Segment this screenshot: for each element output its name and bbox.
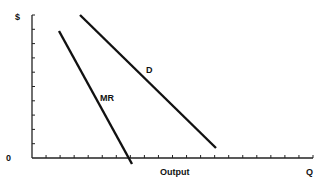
demand-curve-label: D <box>146 65 153 75</box>
chart-canvas: $ 0 Output Q D MR <box>0 0 328 184</box>
demand-curve <box>80 15 216 148</box>
x-axis-label: Output <box>160 167 190 177</box>
origin-label: 0 <box>6 153 11 163</box>
mr-curve-label: MR <box>100 93 114 103</box>
y-axis-label: $ <box>15 12 20 22</box>
x-axis-end-label: Q <box>306 167 313 177</box>
marginal-revenue-curve <box>59 31 132 164</box>
